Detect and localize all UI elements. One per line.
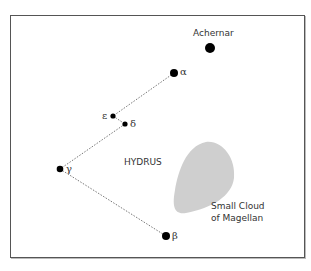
line-alpha-epsilon <box>113 73 174 116</box>
nebula-label-line1: Small Cloud <box>211 201 265 212</box>
alpha-label: α <box>180 66 187 77</box>
nebula-label-line2: of Magellan <box>211 213 263 224</box>
star-achernar-icon <box>205 43 215 53</box>
delta-label: δ <box>130 118 136 129</box>
gamma-label: γ <box>66 163 72 174</box>
line-gamma-beta <box>60 169 166 236</box>
constellation-label: HYDRUS <box>124 157 162 168</box>
star-epsilon-icon <box>110 113 115 118</box>
star-delta-icon <box>122 121 127 126</box>
epsilon-label: ε <box>102 110 107 121</box>
star-beta-icon <box>162 232 170 240</box>
constellation-lines <box>60 73 174 236</box>
star-alpha-icon <box>170 69 178 77</box>
beta-label: β <box>172 230 178 241</box>
star-map <box>0 0 311 271</box>
star-gamma-icon <box>57 166 64 173</box>
achernar-label: Achernar <box>193 28 234 39</box>
